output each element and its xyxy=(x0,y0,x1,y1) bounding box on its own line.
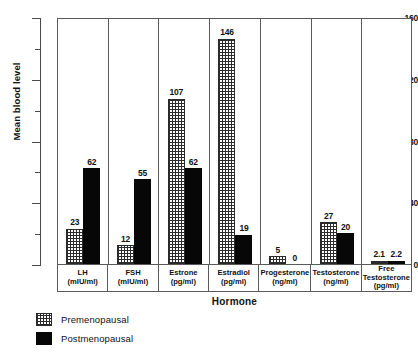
legend-label-premenopausal: Premenopausal xyxy=(61,314,129,325)
category-axis: LH(mIU/ml)FSH(mIU/ml)Estrone(pg/ml)Estra… xyxy=(57,265,412,292)
y-tick-minor xyxy=(35,234,41,235)
x-axis-title: Hormone xyxy=(57,296,412,307)
bar-group: 10762 xyxy=(159,19,210,264)
bar-item: 55 xyxy=(134,19,151,264)
category-label-cell: LH(mIU/ml) xyxy=(58,265,108,291)
bar-premenopausal xyxy=(117,245,134,264)
bar-item: 2.1 xyxy=(371,19,388,264)
bar-chart: Mean blood level 04080120160 23621255107… xyxy=(0,0,418,355)
bar-postmenopausal xyxy=(134,179,151,264)
bar-group: 50 xyxy=(261,19,312,264)
bar-group: 1255 xyxy=(109,19,160,264)
bar-item: 2.2 xyxy=(388,19,405,264)
category-label-cell: Estradiol(pg/ml) xyxy=(209,265,259,291)
bar-postmenopausal xyxy=(337,233,354,264)
bar-item: 0 xyxy=(286,19,303,264)
y-tick-minor xyxy=(35,172,41,173)
bar-premenopausal xyxy=(168,99,185,264)
category-label-cell: Progesterone(ng/ml) xyxy=(259,265,311,291)
bar-value-label: 62 xyxy=(173,158,213,167)
category-unit: (pg/ml) xyxy=(171,278,196,287)
category-label-cell: Free Testosterone(pg/ml) xyxy=(362,265,411,291)
bar-item: 107 xyxy=(168,19,185,264)
bar-item: 19 xyxy=(235,19,252,264)
bar-group: 14619 xyxy=(210,19,261,264)
y-tick-major xyxy=(32,80,41,81)
bar-postmenopausal xyxy=(235,235,252,264)
y-tick-major xyxy=(32,265,41,266)
y-axis-title: Mean blood level xyxy=(11,42,22,162)
bar-value-label: 55 xyxy=(123,169,163,178)
bar-value-label: 2.2 xyxy=(376,250,416,259)
category-unit: (mIU/ml) xyxy=(118,278,148,287)
bar-item: 5 xyxy=(269,19,286,264)
category-name: Free Testosterone xyxy=(363,265,410,283)
category-unit: (mIU/ml) xyxy=(67,278,97,287)
bar-postmenopausal xyxy=(83,168,100,264)
bar-group: 2720 xyxy=(312,19,363,264)
y-tick-minor xyxy=(35,49,41,50)
category-unit: (ng/ml) xyxy=(272,278,297,287)
category-label-cell: Testosterone(ng/ml) xyxy=(311,265,361,291)
bar-item: 20 xyxy=(337,19,354,264)
y-tick-minor xyxy=(35,111,41,112)
y-tick-major xyxy=(32,18,41,19)
bar-item: 62 xyxy=(83,19,100,264)
category-unit: (ng/ml) xyxy=(323,278,348,287)
category-label-cell: FSH(mIU/ml) xyxy=(108,265,158,291)
bar-group: 2362 xyxy=(58,19,109,264)
category-unit: (pg/ml) xyxy=(374,282,399,291)
plot-area: 2362125510762146195027202.12.2 xyxy=(57,18,412,265)
bar-premenopausal xyxy=(66,229,83,265)
category-label-cell: Estrone(pg/ml) xyxy=(159,265,209,291)
bar-group: 2.12.2 xyxy=(362,19,413,264)
category-unit: (pg/ml) xyxy=(221,278,246,287)
bar-item: 23 xyxy=(66,19,83,264)
legend-swatch-postmenopausal-icon xyxy=(36,332,52,345)
bar-value-label: 62 xyxy=(72,158,112,167)
legend-item-postmenopausal: Postmenopausal xyxy=(36,329,133,348)
legend-label-postmenopausal: Postmenopausal xyxy=(61,333,133,344)
bar-item: 62 xyxy=(185,19,202,264)
bar-item: 12 xyxy=(117,19,134,264)
legend: Premenopausal Postmenopausal xyxy=(36,310,133,348)
y-tick-major xyxy=(32,203,41,204)
y-tick-major xyxy=(32,142,41,143)
bar-value-label: 19 xyxy=(224,224,264,233)
bar-value-label: 20 xyxy=(325,223,365,232)
legend-item-premenopausal: Premenopausal xyxy=(36,310,133,329)
legend-swatch-premenopausal-icon xyxy=(36,313,52,326)
bar-postmenopausal xyxy=(185,168,202,264)
bar-value-label: 0 xyxy=(275,254,315,263)
